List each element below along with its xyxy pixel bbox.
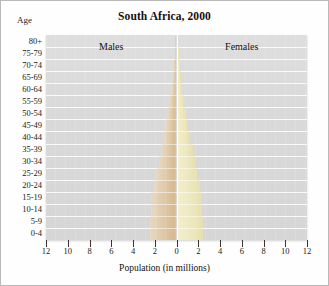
bar-male (166, 119, 176, 131)
bar-male (150, 216, 176, 228)
y-tick-label: 40-44 (22, 133, 42, 142)
y-tick-label: 20-24 (22, 181, 42, 190)
y-axis-tick-labels: 0-45-910-1415-1920-2425-2930-3435-3940-4… (1, 35, 44, 240)
bar-female (177, 180, 200, 192)
bar-female (177, 192, 202, 204)
plot-area: Males Females (46, 35, 307, 240)
x-tick-label: 10 (281, 247, 290, 256)
y-tick-label: 50-54 (22, 109, 42, 118)
bar-male (150, 228, 177, 240)
y-tick-label: 35-39 (22, 145, 42, 154)
bar-male (164, 131, 177, 143)
bar-male (151, 204, 177, 216)
bar-female (177, 144, 193, 156)
chart-title: South Africa, 2000 (1, 10, 328, 22)
y-tick-label: 55-59 (22, 97, 42, 106)
x-axis-title: Population (in millions) (1, 263, 328, 273)
bar-male (154, 180, 177, 192)
bar-female (177, 119, 188, 131)
y-axis-title: Age (17, 15, 32, 25)
x-tick-label: 8 (261, 247, 265, 256)
legend-label-females: Females (177, 41, 308, 52)
y-tick-label: 5-9 (31, 217, 42, 226)
bar-female (177, 95, 184, 107)
bar-female (177, 204, 203, 216)
y-tick-label: 10-14 (22, 205, 42, 214)
y-tick-label: 60-64 (22, 85, 42, 94)
bar-female (177, 131, 191, 143)
y-tick-label: 0-4 (31, 229, 42, 238)
x-tick-label: 6 (109, 247, 113, 256)
y-tick-label: 25-29 (22, 169, 42, 178)
bar-male (156, 168, 176, 180)
x-tick-label: 2 (153, 247, 157, 256)
x-tick-label: 12 (303, 247, 312, 256)
x-tick-label: 12 (42, 247, 51, 256)
bar-female (177, 107, 186, 119)
x-tick-label: 4 (218, 247, 222, 256)
x-tick-label: 0 (174, 247, 178, 256)
x-axis-tick-labels: 12108642024681012 (46, 247, 307, 259)
y-tick-label: 70-74 (22, 61, 42, 70)
bar-female (177, 168, 198, 180)
x-tick-label: 10 (64, 247, 73, 256)
y-tick-label: 65-69 (22, 73, 42, 82)
x-tick-label: 8 (87, 247, 91, 256)
x-tick-label: 4 (131, 247, 135, 256)
center-axis-line (177, 35, 178, 240)
chart-frame: South Africa, 2000 Age 0-45-910-1415-192… (0, 0, 329, 286)
legend-label-males: Males (46, 41, 177, 52)
bar-male (168, 107, 176, 119)
bar-female (177, 156, 195, 168)
y-tick-label: 75-79 (22, 49, 42, 58)
x-tick-label: 6 (240, 247, 244, 256)
bar-male (159, 156, 177, 168)
bar-female (177, 228, 204, 240)
bar-male (151, 192, 176, 204)
y-tick-label: 30-34 (22, 157, 42, 166)
y-tick-label: 15-19 (22, 193, 42, 202)
y-tick-label: 45-49 (22, 121, 42, 130)
y-tick-label: 80+ (29, 37, 42, 46)
x-tick-label: 2 (196, 247, 200, 256)
bar-female (177, 216, 203, 228)
bar-male (161, 144, 176, 156)
